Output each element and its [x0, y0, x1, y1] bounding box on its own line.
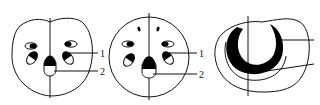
figure-c [215, 16, 314, 96]
figure-b-bundle-top-right [156, 26, 160, 32]
figure-b [109, 13, 197, 100]
figure-a-bundle-upper-left [25, 43, 37, 49]
figure-a-bundle-center [44, 56, 56, 77]
figure-b-bundle-top-left [137, 26, 141, 32]
figure-a-label-2: 2 [100, 66, 105, 77]
figure-b-bundle-mid-right [160, 50, 175, 67]
figure-b-label-1: 1 [199, 48, 204, 59]
figure-b-bundle-mid-left [121, 52, 136, 69]
figure-a-label-1: 1 [100, 48, 105, 59]
figure-b-bundle-center [142, 56, 156, 78]
figure-a-bundle-mid-left [24, 50, 39, 67]
figure-a-bundle-mid-right [60, 50, 75, 67]
figure-c-crescent-bundle [226, 24, 283, 74]
figure-b-label-2: 2 [199, 69, 204, 80]
figure-a [12, 18, 98, 98]
figure-a-bundle-upper-right [65, 41, 78, 47]
diagram-canvas: 1 2 1 2 [0, 0, 320, 105]
figure-b-bundle-upper-left [122, 41, 134, 47]
figure-b-bundle-upper-right [162, 41, 175, 47]
